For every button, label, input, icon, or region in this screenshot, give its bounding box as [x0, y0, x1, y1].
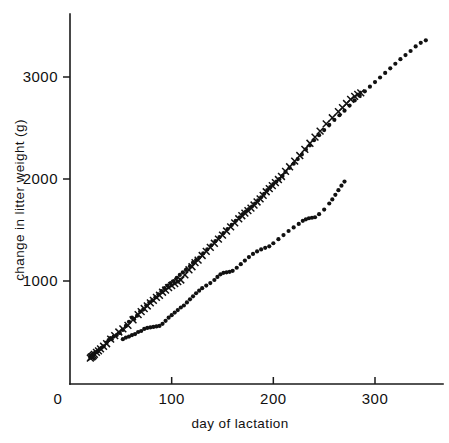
data-point-dot: [204, 283, 208, 287]
data-point-dot: [297, 222, 301, 226]
data-point-dot: [327, 201, 331, 205]
data-point-dot: [424, 38, 428, 42]
data-point-dot: [408, 49, 412, 53]
data-point-dot: [322, 208, 326, 212]
y-axis-title: change in litter weight (g): [12, 119, 27, 281]
data-point-dot: [281, 233, 285, 237]
x-tick-label: 100: [158, 390, 185, 407]
data-point-dot: [276, 237, 280, 241]
x-tick-label: 300: [362, 390, 389, 407]
data-series-group: [87, 38, 428, 361]
data-point-dot: [378, 75, 382, 79]
y-tick-label: 3000: [23, 68, 58, 85]
data-point-dot: [212, 278, 216, 282]
data-point-dot: [163, 319, 167, 323]
data-point-dot: [393, 62, 397, 66]
data-point-dot: [317, 212, 321, 216]
data-point-dot: [243, 259, 247, 263]
data-point-dot: [330, 197, 334, 201]
data-point-dot: [271, 241, 275, 245]
y-axis-ticks: 100020003000: [23, 68, 70, 289]
x-tick-label: 200: [260, 390, 287, 407]
data-point-dot: [188, 297, 192, 301]
data-point-dot: [239, 262, 243, 266]
data-point-dot: [200, 286, 204, 290]
data-point-dot: [292, 225, 296, 229]
data-point-dot: [286, 229, 290, 233]
x-axis-title: day of lactation: [191, 416, 288, 431]
data-point-dot: [235, 266, 239, 270]
data-point-dot: [313, 215, 317, 219]
data-point-dot: [259, 247, 263, 251]
series-upper-dots: [88, 38, 428, 359]
x-axis-ticks: 0100200300: [54, 377, 389, 407]
data-point-dot: [403, 53, 407, 57]
data-point-dot: [419, 41, 423, 45]
data-point-dot: [263, 246, 267, 250]
data-point-dot: [414, 44, 418, 48]
data-point-dot: [247, 255, 251, 259]
data-point-dot: [191, 294, 195, 298]
data-point-dot: [160, 322, 164, 326]
data-point-dot: [208, 281, 212, 285]
plot-axes: [70, 14, 443, 384]
scatter-plot-canvas: 100020003000 0100200300 day of lactation…: [0, 0, 449, 443]
data-point-dot: [339, 184, 343, 188]
data-point-dot: [398, 57, 402, 61]
y-tick-label: 1000: [23, 272, 58, 289]
data-point-dot: [333, 193, 337, 197]
data-point-dot: [342, 179, 346, 183]
data-point-dot: [255, 249, 259, 253]
data-point-dot: [267, 244, 271, 248]
data-point-dot: [185, 300, 189, 304]
data-point-dot: [368, 85, 372, 89]
y-tick-label: 2000: [23, 170, 58, 187]
data-point-dot: [388, 66, 392, 70]
data-point-dot: [336, 188, 340, 192]
data-point-dot: [251, 252, 255, 256]
data-point-dot: [182, 303, 186, 307]
chart-figure: 100020003000 0100200300 day of lactation…: [0, 0, 449, 443]
data-point-dot: [373, 80, 377, 84]
data-point-dot: [231, 269, 235, 273]
data-point-dot: [383, 71, 387, 75]
series-lower-dots: [121, 179, 347, 341]
x-tick-label: 0: [54, 390, 63, 407]
